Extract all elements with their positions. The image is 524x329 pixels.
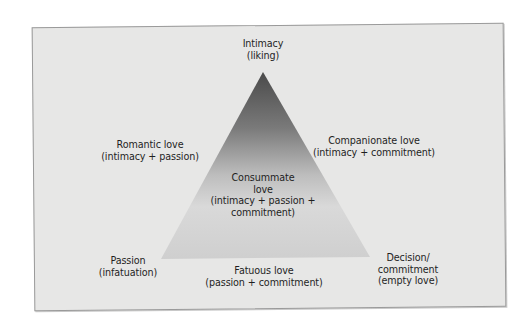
label-line: Companionate love bbox=[313, 135, 435, 147]
label-line: commitment bbox=[378, 264, 438, 276]
label-line: Passion bbox=[99, 255, 157, 267]
label-line: (intimacy + commitment) bbox=[313, 147, 435, 159]
label-line: (intimacy + passion) bbox=[101, 151, 199, 163]
label-decision-commitment: Decision/ commitment (empty love) bbox=[378, 252, 438, 287]
label-line: (empty love) bbox=[378, 275, 438, 287]
label-romantic-love: Romantic love (intimacy + passion) bbox=[101, 139, 199, 162]
label-line: Fatuous love bbox=[205, 265, 322, 277]
label-line: love bbox=[211, 184, 316, 196]
label-line: (passion + commitment) bbox=[205, 277, 322, 289]
label-companionate-love: Companionate love (intimacy + commitment… bbox=[313, 135, 435, 158]
label-line: commitment) bbox=[211, 207, 316, 219]
label-line: (intimacy + passion + bbox=[211, 195, 316, 207]
label-line: (infatuation) bbox=[99, 267, 157, 279]
triangle-shading bbox=[161, 72, 370, 259]
label-line: Decision/ bbox=[378, 252, 438, 264]
label-intimacy: Intimacy (liking) bbox=[243, 38, 284, 61]
label-line: Intimacy bbox=[243, 38, 284, 50]
label-passion: Passion (infatuation) bbox=[99, 255, 157, 278]
label-line: Romantic love bbox=[101, 139, 199, 151]
label-line: Consummate bbox=[211, 172, 316, 184]
label-fatuous-love: Fatuous love (passion + commitment) bbox=[205, 265, 322, 288]
label-line: (liking) bbox=[243, 50, 284, 62]
label-consummate-love: Consummate love (intimacy + passion + co… bbox=[211, 172, 316, 218]
